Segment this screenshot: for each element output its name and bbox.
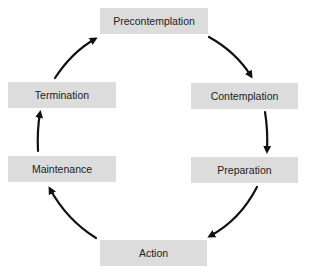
arrow-precontemplation-to-contemplation [209,37,251,76]
arrow-termination-to-precontemplation [55,39,95,78]
arrow-preparation-to-action [210,187,257,236]
arrow-action-to-maintenance [50,189,96,238]
arrow-maintenance-to-termination [38,113,40,151]
arrow-contemplation-to-preparation [265,112,267,151]
cycle-arrows [0,0,313,277]
